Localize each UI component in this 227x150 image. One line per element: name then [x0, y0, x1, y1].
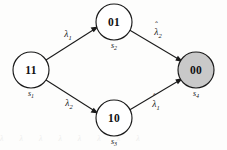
state-label-s1: s1 — [28, 89, 34, 100]
state-index-s4: 4 — [196, 93, 199, 99]
node-label-s4: 00 — [190, 64, 202, 76]
state-label-s4: s4 — [193, 89, 199, 100]
lambda-symbol-e2: ̂λ — [154, 27, 158, 37]
lambda-subscript-e4: 1 — [156, 104, 159, 111]
edge-label-lambda1: λ1 — [64, 29, 71, 41]
lambda-symbol-e4: ̂λ — [152, 99, 156, 109]
lambda-subscript-e1: 1 — [68, 34, 71, 41]
lambda-symbol-e1: λ — [64, 29, 68, 39]
edge-label-lambda-hat-2: ̂λ2 — [154, 27, 161, 39]
state-label-s2: s2 — [111, 41, 117, 52]
lambda-glyph-e1: λ — [64, 29, 68, 39]
diagram-canvas: 11 01 10 00 s1 s2 s3 s4 λ1 ̂λ2 λ2 ̂λ1 λ … — [0, 0, 227, 150]
lambda-glyph-e2: λ — [154, 27, 158, 37]
lambda-subscript-e3: 2 — [69, 103, 72, 110]
lambda-symbol-e3: λ — [65, 98, 69, 108]
scan-bleed-artifact: λ λ λ λ λ λ λ λ — [0, 134, 227, 148]
lambda-glyph-e4: λ — [152, 99, 156, 109]
state-index-s1: 1 — [31, 93, 34, 99]
node-label-s3: 10 — [108, 112, 120, 124]
lambda-glyph-e3: λ — [65, 98, 69, 108]
edge-label-lambda-hat-1: ̂λ1 — [152, 99, 159, 111]
edge-label-lambda2: λ2 — [65, 98, 72, 110]
node-label-s1: 11 — [25, 64, 36, 76]
node-label-s2: 01 — [108, 16, 120, 28]
lambda-subscript-e2: 2 — [158, 32, 161, 39]
edge-s1-s2 — [46, 27, 99, 60]
state-index-s2: 2 — [114, 45, 117, 51]
